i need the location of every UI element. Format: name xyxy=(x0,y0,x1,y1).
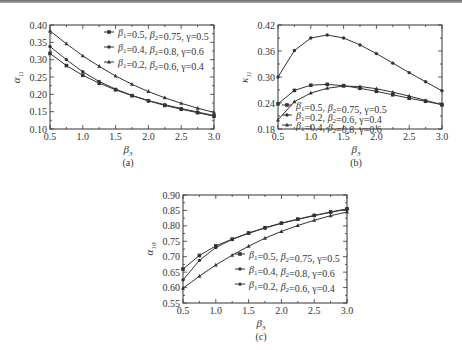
x-tick-label: 1.0 xyxy=(77,131,90,142)
x-tick-label: 3.0 xyxy=(436,131,449,142)
x-tick-label: 2.5 xyxy=(175,131,188,142)
panel-caption: (b) xyxy=(350,157,362,169)
legend-item: β1=0.2, β2=0.6, γ=0.4 xyxy=(104,57,204,72)
y-tick-label: 0.55 xyxy=(163,298,181,309)
chart-panel-b: 0.51.01.52.02.53.00.180.240.300.360.42β3… xyxy=(238,20,448,170)
x-tick-label: 2.0 xyxy=(275,305,288,316)
svg-text:β1=0.4, β2=0.8, γ=0.6: β1=0.4, β2=0.8, γ=0.6 xyxy=(117,42,204,57)
x-tick-label: 1.5 xyxy=(242,305,255,316)
y-tick-label: 0.24 xyxy=(258,98,276,109)
x-tick-label: 3.0 xyxy=(208,131,221,142)
x-tick-label: 1.5 xyxy=(109,131,122,142)
x-tick-label: 2.5 xyxy=(403,131,416,142)
x-tick-label: 1.0 xyxy=(305,131,318,142)
legend-item: β1=0.5, β2=0.75, γ=0.5 xyxy=(235,249,340,264)
y-tick-label: 0.60 xyxy=(163,282,181,293)
y-tick-label: 0.40 xyxy=(30,20,48,31)
svg-text:β1=0.5, β2=0.75, γ=0.5: β1=0.5, β2=0.75, γ=0.5 xyxy=(117,27,209,42)
svg-text:β1=0.5, β2=0.75, γ=0.5: β1=0.5, β2=0.75, γ=0.5 xyxy=(248,249,340,264)
data-series xyxy=(276,33,443,92)
panel-caption: (c) xyxy=(255,331,266,343)
y-axis-title: α10 xyxy=(143,242,158,255)
x-axis-title: β3 xyxy=(351,143,361,158)
legend-item: β1=0.4, β2=0.8, γ=0.6 xyxy=(235,264,335,279)
y-tick-label: 0.35 xyxy=(30,37,48,48)
y-tick-label: 0.30 xyxy=(258,72,276,83)
y-tick-label: 0.42 xyxy=(258,20,276,31)
svg-text:β1=0.2, β2=0.6, γ=0.4: β1=0.2, β2=0.6, γ=0.4 xyxy=(248,279,335,294)
chart-panel-a: 0.51.01.52.02.53.00.100.150.200.250.300.… xyxy=(10,20,220,170)
y-tick-label: 0.75 xyxy=(163,236,181,247)
chart-panel-c: 0.51.01.52.02.53.00.550.600.650.700.750.… xyxy=(143,190,353,344)
y-axis-title: κ11 xyxy=(238,71,253,83)
x-axis-title: β3 xyxy=(123,143,133,158)
figure-chart-grid: 0.51.01.52.02.53.00.100.150.200.250.300.… xyxy=(0,0,462,350)
y-tick-label: 0.10 xyxy=(30,124,48,135)
x-tick-label: 2.0 xyxy=(142,131,155,142)
legend-item: β1=0.4, β2=0.8, γ=0.6 xyxy=(104,42,204,57)
y-axis-title: α11 xyxy=(10,71,25,83)
panel-caption: (a) xyxy=(122,157,133,169)
y-tick-label: 0.25 xyxy=(30,72,48,83)
legend-item: β1=0.5, β2=0.75, γ=0.5 xyxy=(104,27,209,42)
x-tick-label: 3.0 xyxy=(341,305,354,316)
svg-text:β1=0.4, β2=0.8, γ=0.6: β1=0.4, β2=0.8, γ=0.6 xyxy=(248,264,335,279)
y-tick-label: 0.15 xyxy=(30,106,48,117)
y-tick-label: 0.65 xyxy=(163,267,181,278)
legend-item: β1=0.2, β2=0.6, γ=0.4 xyxy=(235,279,335,294)
y-tick-label: 0.80 xyxy=(163,220,181,231)
y-tick-label: 0.20 xyxy=(30,89,48,100)
x-axis-title: β3 xyxy=(256,317,266,332)
y-tick-label: 0.36 xyxy=(258,46,276,57)
y-tick-label: 0.30 xyxy=(30,54,48,65)
y-tick-label: 0.90 xyxy=(163,190,181,201)
y-tick-label: 0.70 xyxy=(163,251,181,262)
x-tick-label: 1.0 xyxy=(210,305,223,316)
y-tick-label: 0.18 xyxy=(258,124,276,135)
x-tick-label: 2.5 xyxy=(308,305,321,316)
svg-text:β1=0.2, β2=0.6, γ=0.4: β1=0.2, β2=0.6, γ=0.4 xyxy=(117,57,204,72)
y-tick-label: 0.85 xyxy=(163,205,181,216)
